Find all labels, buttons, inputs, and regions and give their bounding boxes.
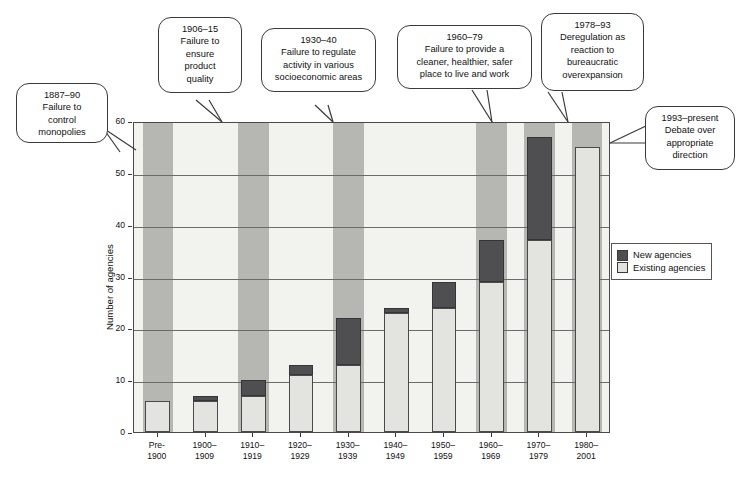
bar-8-new <box>527 137 552 241</box>
bar-3 <box>289 365 314 432</box>
y-tick-mark-30 <box>128 278 132 279</box>
plot-area <box>133 122 610 433</box>
connector-1960-79-b <box>487 90 492 122</box>
x-tick-label-9: 1980– 2001 <box>562 440 610 462</box>
y-tick-label-30: 30 <box>103 273 125 282</box>
bar-7-new <box>479 240 504 281</box>
highlight-band-0 <box>143 123 174 432</box>
x-tick-mark-2 <box>252 433 253 437</box>
legend-swatch-new <box>617 250 628 261</box>
callout-1906-15-text: Failure to ensure product quality <box>166 35 234 85</box>
x-tick-mark-7 <box>491 433 492 437</box>
bar-4 <box>336 318 361 432</box>
callout-1930-40: 1930–40 Failure to regulate activity in … <box>261 28 376 92</box>
callout-1906-15-period: 1906–15 <box>166 23 234 35</box>
bar-8-existing <box>527 240 552 432</box>
x-tick-label-3: 1920– 1929 <box>276 440 324 462</box>
bar-0 <box>145 401 170 432</box>
x-tick-label-1: 1900– 1909 <box>181 440 229 462</box>
legend-label-new: New agencies <box>633 250 691 260</box>
callout-1960-79-text: Failure to provide a cleaner, healthier,… <box>405 43 524 80</box>
bar-4-existing <box>336 365 361 432</box>
callout-1930-40-text: Failure to regulate activity in various … <box>269 46 368 83</box>
callout-1930-40-period: 1930–40 <box>269 34 368 46</box>
callout-1978-93: 1978–93 Deregulation as reaction to bure… <box>541 13 644 91</box>
connector-1930-40-b <box>328 105 333 122</box>
legend-item-new: New agencies <box>617 250 705 261</box>
bar-8 <box>527 137 552 432</box>
bar-1 <box>193 396 218 432</box>
bar-5-existing <box>384 313 409 432</box>
y-tick-mark-10 <box>128 381 132 382</box>
y-tick-mark-50 <box>128 174 132 175</box>
x-tick-label-5: 1940– 1949 <box>372 440 420 462</box>
y-axis-label: Number of agencies <box>104 244 115 330</box>
x-tick-mark-9 <box>586 433 587 437</box>
x-tick-label-4: 1930– 1939 <box>324 440 372 462</box>
connector-1978-93-b <box>562 92 568 122</box>
bar-6 <box>432 282 457 432</box>
x-tick-mark-3 <box>300 433 301 437</box>
callout-1960-79-period: 1960–79 <box>405 31 524 43</box>
callout-1993-present: 1993–present Debate over appropriate dir… <box>645 106 735 170</box>
plot-frame <box>133 122 610 433</box>
y-tick-label-0: 0 <box>103 428 125 437</box>
x-tick-mark-6 <box>443 433 444 437</box>
x-tick-label-6: 1950– 1959 <box>419 440 467 462</box>
connector-1960-79 <box>472 90 492 122</box>
y-tick-label-40: 40 <box>103 221 125 230</box>
legend-swatch-existing <box>617 262 628 273</box>
x-tick-mark-5 <box>395 433 396 437</box>
bar-7-existing <box>479 282 504 432</box>
bar-3-new <box>289 365 314 375</box>
bar-3-existing <box>289 375 314 432</box>
connector-1930-40 <box>315 105 333 122</box>
connector-1906-15-b <box>209 100 222 122</box>
bar-1-new <box>193 396 218 401</box>
connector-1993-present <box>610 125 648 143</box>
bar-7 <box>479 240 504 432</box>
legend-item-existing: Existing agencies <box>617 262 705 273</box>
x-tick-label-0: Pre- 1900 <box>133 440 181 462</box>
callout-1993-present-period: 1993–present <box>653 112 727 124</box>
callout-1887-90: 1887–90 Failure to control monopolies <box>16 83 108 143</box>
bar-2 <box>241 380 266 432</box>
y-tick-mark-40 <box>128 226 132 227</box>
bar-2-existing <box>241 396 266 432</box>
callout-1978-93-period: 1978–93 <box>549 19 636 31</box>
callout-1993-present-text: Debate over appropriate direction <box>653 124 727 161</box>
legend-label-existing: Existing agencies <box>633 263 705 273</box>
bar-5-new <box>384 308 409 313</box>
x-tick-mark-4 <box>348 433 349 437</box>
bar-9-existing <box>575 147 600 432</box>
callout-1960-79: 1960–79 Failure to provide a cleaner, he… <box>397 25 532 89</box>
y-tick-mark-20 <box>128 329 132 330</box>
bar-1-existing <box>193 401 218 432</box>
x-tick-label-7: 1960– 1969 <box>467 440 515 462</box>
x-tick-label-8: 1970– 1979 <box>515 440 563 462</box>
bar-9 <box>575 147 600 432</box>
x-tick-mark-8 <box>538 433 539 437</box>
bar-0-existing <box>145 401 170 432</box>
bar-2-new <box>241 380 266 396</box>
x-tick-mark-1 <box>205 433 206 437</box>
bar-4-new <box>336 318 361 365</box>
callout-1978-93-text: Deregulation as reaction to bureaucratic… <box>549 31 636 81</box>
callout-1887-90-period: 1887–90 <box>24 89 100 101</box>
bar-6-existing <box>432 308 457 432</box>
y-tick-label-10: 10 <box>103 376 125 385</box>
bar-6-new <box>432 282 457 308</box>
legend: New agencies Existing agencies <box>611 243 712 280</box>
y-tick-mark-60 <box>128 122 132 123</box>
y-tick-label-20: 20 <box>103 324 125 333</box>
connector-1887-90 <box>103 128 136 150</box>
callout-1906-15: 1906–15 Failure to ensure product qualit… <box>158 17 242 93</box>
y-tick-mark-0 <box>128 433 132 434</box>
callout-1887-90-text: Failure to control monopolies <box>24 101 100 138</box>
x-tick-mark-0 <box>157 433 158 437</box>
chart-page: 1887–90 Failure to control monopolies 19… <box>0 0 746 486</box>
connector-1906-15 <box>196 100 222 122</box>
x-tick-label-2: 1910– 1919 <box>228 440 276 462</box>
connector-1978-93 <box>548 92 568 122</box>
y-tick-label-50: 50 <box>103 169 125 178</box>
